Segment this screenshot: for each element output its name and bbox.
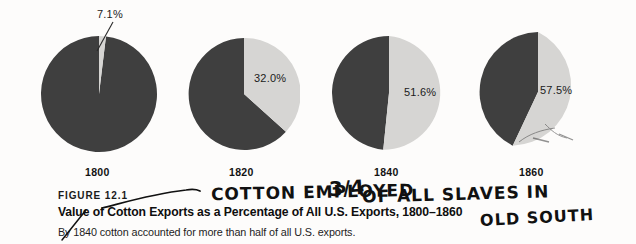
pie-1820-svg	[188, 38, 300, 150]
pie-chart-1820	[188, 38, 300, 150]
pie-1820-year-label: 1820	[229, 166, 254, 178]
pie-1800-value-label: 7.1%	[97, 8, 123, 20]
figure-page: 7.1% 1800 32.0% 1820 51.6% 1840 5	[0, 0, 636, 244]
handwriting-smudge-pie-1860	[515, 118, 585, 150]
pie-1800-leader-line	[88, 20, 124, 54]
pie-1840-slice-other	[332, 36, 389, 150]
pie-1860-value-label: 57.5%	[540, 84, 572, 96]
pie-1860-year-label: 1860	[519, 166, 544, 178]
annotation-tail-stroke	[56, 208, 90, 242]
pie-1800-year-label: 1800	[85, 166, 110, 178]
pie-1840-year-label: 1840	[374, 166, 399, 178]
pie-1840-value-label: 51.6%	[404, 86, 436, 98]
annotation-strikethrough	[100, 182, 205, 212]
figure-subtitle: By 1840 cotton accounted for more than h…	[58, 226, 355, 238]
annotation-line-2: OF ALL SLAVES IN	[362, 181, 550, 206]
annotation-fraction: 3/4	[328, 175, 365, 201]
pie-1820-value-label: 32.0%	[254, 72, 286, 84]
annotation-line-3: OLD SOUTH	[480, 205, 595, 230]
